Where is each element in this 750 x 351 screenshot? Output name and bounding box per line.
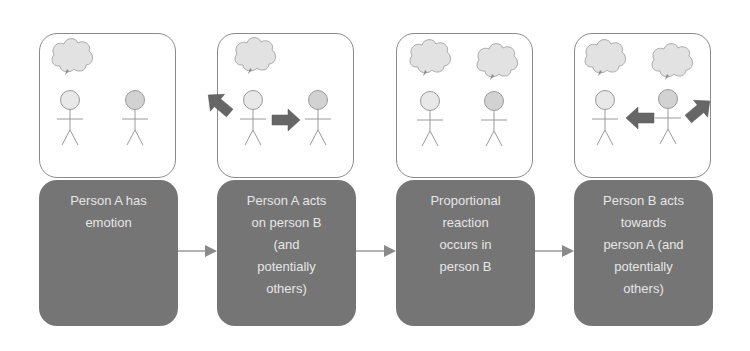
scene-box-4 xyxy=(574,33,711,178)
step-label-2: Person A acts on person B (and potential… xyxy=(223,190,350,300)
connector-3-4 xyxy=(535,245,574,257)
scene-box-2 xyxy=(217,33,354,178)
step-box-2: Person A acts on person B (and potential… xyxy=(217,180,356,326)
connector-2-3 xyxy=(356,245,396,257)
scene-box-1 xyxy=(39,33,176,178)
scene-box-3 xyxy=(396,33,533,178)
step-label-4: Person B acts towards person A (and pote… xyxy=(580,190,707,300)
step-box-3: Proportional reaction occurs in person B xyxy=(396,180,535,326)
step-label-3: Proportional reaction occurs in person B xyxy=(402,190,529,278)
step-label-1: Person A has emotion xyxy=(45,190,172,234)
step-box-1: Person A has emotion xyxy=(39,180,178,326)
connector-1-2 xyxy=(178,245,217,257)
step-box-4: Person B acts towards person A (and pote… xyxy=(574,180,713,326)
